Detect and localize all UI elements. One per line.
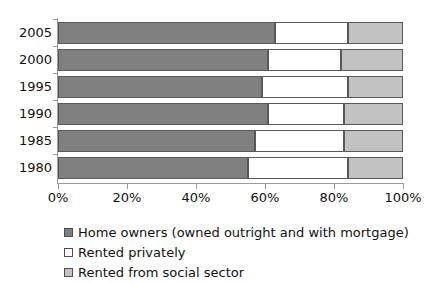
- value-tick: [334, 184, 335, 189]
- bar-segment: [344, 130, 403, 152]
- category-tick: [53, 46, 58, 47]
- bar-row: [58, 130, 403, 152]
- bar-segment: [268, 49, 340, 71]
- value-label-0pct: 0%: [28, 190, 88, 206]
- bar-segment: [348, 76, 403, 98]
- bar-segment: [255, 130, 345, 152]
- bar-segment: [58, 157, 248, 179]
- bar-segment: [341, 49, 403, 71]
- bar-row: [58, 49, 403, 71]
- category-tick: [53, 73, 58, 74]
- value-label-100pct: 100%: [373, 190, 433, 206]
- bar-segment: [262, 76, 348, 98]
- stacked-bar-chart: 200520001995199019851980 0%20%40%60%80%1…: [0, 0, 436, 283]
- value-axis-labels: 0%20%40%60%80%100%: [0, 190, 436, 208]
- chart-legend: Home owners (owned outright and with mor…: [64, 222, 404, 282]
- legend-swatch-icon: [64, 228, 73, 237]
- bar-row: [58, 76, 403, 98]
- plot-area: [58, 20, 403, 182]
- value-label-40pct: 40%: [166, 190, 226, 206]
- bar-segment: [348, 22, 403, 44]
- value-tick: [403, 184, 404, 189]
- legend-swatch-icon: [64, 268, 73, 277]
- value-tick: [58, 184, 59, 189]
- bar-row: [58, 22, 403, 44]
- category-label-1995: 1995: [6, 79, 52, 95]
- legend-label: Rented from social sector: [78, 265, 244, 280]
- value-label-80pct: 80%: [304, 190, 364, 206]
- legend-label: Rented privately: [78, 245, 185, 260]
- bar-segment: [58, 130, 255, 152]
- category-label-2005: 2005: [6, 25, 52, 41]
- category-tick: [53, 154, 58, 155]
- bar-segment: [58, 76, 262, 98]
- value-tick: [127, 184, 128, 189]
- bar-segment: [275, 22, 347, 44]
- bar-segment: [348, 157, 403, 179]
- category-label-1985: 1985: [6, 133, 52, 149]
- category-tick: [53, 19, 58, 20]
- legend-swatch-icon: [64, 248, 73, 257]
- bar-row: [58, 103, 403, 125]
- value-tick: [265, 184, 266, 189]
- value-tick: [196, 184, 197, 189]
- bar-segment: [58, 22, 275, 44]
- legend-label: Home owners (owned outright and with mor…: [78, 225, 409, 240]
- category-label-1990: 1990: [6, 106, 52, 122]
- legend-item: Home owners (owned outright and with mor…: [64, 222, 404, 242]
- category-label-1980: 1980: [6, 160, 52, 176]
- bar-segment: [248, 157, 348, 179]
- bar-row: [58, 157, 403, 179]
- bar-segment: [268, 103, 344, 125]
- legend-item: Rented privately: [64, 242, 404, 262]
- category-axis-labels: 200520001995199019851980: [0, 20, 52, 182]
- bar-segment: [58, 103, 268, 125]
- value-axis-line: [57, 183, 404, 184]
- category-label-2000: 2000: [6, 52, 52, 68]
- value-label-20pct: 20%: [97, 190, 157, 206]
- category-tick: [53, 127, 58, 128]
- category-tick: [53, 100, 58, 101]
- value-label-60pct: 60%: [235, 190, 295, 206]
- legend-item: Rented from social sector: [64, 262, 404, 282]
- bar-segment: [344, 103, 403, 125]
- bar-segment: [58, 49, 268, 71]
